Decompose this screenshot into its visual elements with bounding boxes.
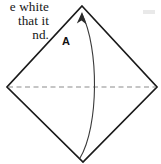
figure-canvas: e white that it nd. A <box>0 0 161 164</box>
diamond-outline <box>7 6 157 162</box>
region-label-a: A <box>59 35 73 47</box>
fold-direction-arrow <box>80 14 95 158</box>
fold-diagram-svg <box>0 0 161 164</box>
fold-arrow-head-icon <box>77 12 87 25</box>
scan-artifact <box>143 10 155 14</box>
